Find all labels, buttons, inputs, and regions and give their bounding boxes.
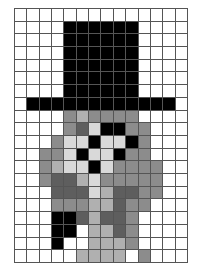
pixel-cell xyxy=(126,149,138,162)
pixel-cell xyxy=(64,98,76,111)
pixel-cell xyxy=(139,199,151,212)
pixel-cell xyxy=(126,250,138,263)
pixel-cell xyxy=(27,72,39,85)
pixel-cell xyxy=(114,212,126,225)
pixel-cell xyxy=(163,22,175,35)
pixel-cell xyxy=(77,250,89,263)
pixel-cell xyxy=(27,136,39,149)
pixel-cell xyxy=(126,9,138,22)
pixel-cell xyxy=(52,98,64,111)
pixel-cell xyxy=(15,149,27,162)
pixel-cell xyxy=(40,9,52,22)
pixel-cell xyxy=(89,136,101,149)
pixel-cell xyxy=(52,238,64,251)
pixel-cell xyxy=(40,47,52,60)
pixel-cell xyxy=(27,85,39,98)
pixel-cell xyxy=(151,60,163,73)
pixel-cell xyxy=(151,136,163,149)
pixel-cell xyxy=(163,98,175,111)
pixel-cell xyxy=(40,72,52,85)
pixel-cell xyxy=(139,34,151,47)
pixel-cell xyxy=(151,34,163,47)
pixel-cell xyxy=(89,47,101,60)
pixel-cell xyxy=(176,187,188,200)
pixel-cell xyxy=(52,85,64,98)
pixel-cell xyxy=(15,22,27,35)
pixel-cell xyxy=(64,85,76,98)
pixel-cell xyxy=(163,161,175,174)
pixel-cell xyxy=(89,149,101,162)
pixel-cell xyxy=(40,225,52,238)
pixel-cell xyxy=(77,9,89,22)
pixel-cell xyxy=(176,60,188,73)
pixel-cell xyxy=(40,34,52,47)
pixel-cell xyxy=(139,123,151,136)
pixel-cell xyxy=(77,238,89,251)
pixel-cell xyxy=(40,199,52,212)
pixel-cell xyxy=(114,199,126,212)
pixel-cell xyxy=(77,22,89,35)
pixel-cell xyxy=(126,199,138,212)
pixel-cell xyxy=(52,60,64,73)
pixel-cell xyxy=(52,123,64,136)
pixel-cell xyxy=(27,111,39,124)
pixel-cell xyxy=(126,225,138,238)
pixel-cell xyxy=(89,225,101,238)
pixel-cell xyxy=(126,34,138,47)
pixel-cell xyxy=(114,47,126,60)
pixel-cell xyxy=(101,199,113,212)
pixel-cell xyxy=(139,174,151,187)
pixel-cell xyxy=(176,72,188,85)
pixel-cell xyxy=(151,161,163,174)
pixel-cell xyxy=(139,98,151,111)
pixel-cell xyxy=(89,98,101,111)
pixel-cell xyxy=(114,111,126,124)
pixel-cell xyxy=(40,250,52,263)
pixel-cell xyxy=(15,161,27,174)
pixel-cell xyxy=(15,199,27,212)
pixel-cell xyxy=(151,111,163,124)
pixel-cell xyxy=(64,250,76,263)
pixel-cell xyxy=(151,187,163,200)
pixel-cell xyxy=(151,22,163,35)
pixel-cell xyxy=(114,22,126,35)
pixel-cell xyxy=(89,111,101,124)
pixel-cell xyxy=(114,60,126,73)
pixel-cell xyxy=(176,250,188,263)
pixel-cell xyxy=(89,85,101,98)
pixel-cell xyxy=(114,174,126,187)
pixel-cell xyxy=(52,174,64,187)
pixel-cell xyxy=(101,250,113,263)
pixel-cell xyxy=(64,136,76,149)
pixel-cell xyxy=(89,187,101,200)
pixel-cell xyxy=(40,85,52,98)
pixel-cell xyxy=(176,199,188,212)
pixel-cell xyxy=(64,174,76,187)
pixel-cell xyxy=(163,111,175,124)
pixel-cell xyxy=(64,34,76,47)
pixel-cell xyxy=(27,149,39,162)
pixel-cell xyxy=(114,136,126,149)
pixel-cell xyxy=(89,212,101,225)
pixel-cell xyxy=(163,238,175,251)
pixel-cell xyxy=(101,149,113,162)
pixel-cell xyxy=(64,225,76,238)
pixel-cell xyxy=(114,225,126,238)
pixel-cell xyxy=(151,250,163,263)
pixel-cell xyxy=(27,123,39,136)
pixel-cell xyxy=(52,225,64,238)
pixel-cell xyxy=(151,98,163,111)
pixel-cell xyxy=(139,60,151,73)
pixel-cell xyxy=(27,187,39,200)
pixel-cell xyxy=(114,98,126,111)
pixel-cell xyxy=(64,9,76,22)
pixel-cell xyxy=(101,85,113,98)
pixel-cell xyxy=(77,174,89,187)
pixel-cell xyxy=(176,149,188,162)
pixel-cell xyxy=(77,85,89,98)
pixel-cell xyxy=(40,136,52,149)
pixel-cell xyxy=(89,174,101,187)
pixel-cell xyxy=(163,123,175,136)
pixel-cell xyxy=(64,47,76,60)
pixel-cell xyxy=(176,123,188,136)
